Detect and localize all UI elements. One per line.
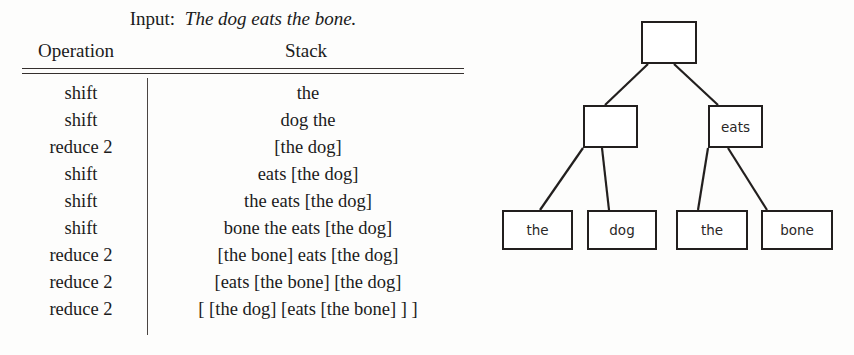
table-row: reduce 2 [eats [the bone] [the dog] <box>22 269 464 296</box>
cell-stack: the <box>152 80 464 107</box>
parse-tree-panel: eats the dog the bone <box>478 0 854 355</box>
cell-operation: reduce 2 <box>22 134 140 161</box>
table-row: shift the <box>22 80 464 107</box>
cell-stack: bone the eats [the dog] <box>152 215 464 242</box>
column-header-stack: Stack <box>148 37 464 65</box>
cell-operation: shift <box>22 161 140 188</box>
tree-leaf-dog: dog <box>587 210 657 250</box>
cell-operation: reduce 2 <box>22 242 140 269</box>
table-row: reduce 2 [the bone] eats [the dog] <box>22 242 464 269</box>
parse-table-panel: Input: The dog eats the bone. Operation … <box>0 0 478 355</box>
cell-operation: reduce 2 <box>22 269 140 296</box>
table-row: shift bone the eats [the dog] <box>22 215 464 242</box>
table-body: shift the shift dog the reduce 2 [the do… <box>22 80 464 323</box>
tree-leaf-the-1: the <box>502 210 573 250</box>
cell-operation: shift <box>22 215 140 242</box>
input-caption: Input: The dog eats the bone. <box>22 6 464 32</box>
cell-stack: eats [the dog] <box>152 161 464 188</box>
cell-operation: shift <box>22 80 140 107</box>
tree-node-root <box>641 21 697 64</box>
tree-node-np <box>583 105 638 148</box>
cell-operation: shift <box>22 107 140 134</box>
input-caption-sentence: The dog eats the bone. <box>180 8 357 29</box>
header-rule-lower <box>22 73 464 74</box>
cell-stack: [eats [the bone] [the dog] <box>152 269 464 296</box>
cell-stack: dog the <box>152 107 464 134</box>
table-row: shift the eats [the dog] <box>22 188 464 215</box>
cell-stack: the eats [the dog] <box>152 188 464 215</box>
table-row: reduce 2 [ [the dog] [eats [the bone] ] … <box>22 296 464 323</box>
figure-page: Input: The dog eats the bone. Operation … <box>0 0 854 355</box>
table-row: shift eats [the dog] <box>22 161 464 188</box>
cell-operation: shift <box>22 188 140 215</box>
column-header-operation: Operation <box>38 37 114 65</box>
tree-leaf-the-2: the <box>676 210 748 250</box>
table-row: shift dog the <box>22 107 464 134</box>
cell-operation: reduce 2 <box>22 296 140 323</box>
cell-stack: [the dog] <box>152 134 464 161</box>
table-header-row: Operation Stack <box>22 37 464 67</box>
header-rule-upper <box>22 68 464 69</box>
input-caption-label: Input: <box>130 8 175 29</box>
cell-stack: [the bone] eats [the dog] <box>152 242 464 269</box>
cell-stack: [ [the dog] [eats [the bone] ] ] <box>152 296 464 323</box>
tree-node-vp-eats: eats <box>708 105 763 148</box>
table-row: reduce 2 [the dog] <box>22 134 464 161</box>
tree-leaf-bone: bone <box>761 210 833 250</box>
